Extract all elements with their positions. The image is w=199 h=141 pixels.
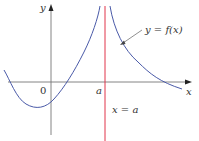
graph-canvas: y x 0 a y = f(x) x = a	[0, 0, 199, 141]
asymptote-label: x = a	[112, 104, 138, 115]
figure: y x 0 a y = f(x) x = a	[0, 0, 199, 141]
origin-label: 0	[40, 85, 46, 96]
x-axis-arrow-icon	[185, 80, 192, 85]
curve-right-branch	[110, 6, 182, 89]
pointer-arrow-icon	[120, 41, 126, 46]
x-axis-label: x	[186, 86, 192, 97]
y-axis-arrow-icon	[49, 4, 54, 11]
curve-label: y = f(x)	[144, 24, 183, 35]
curve-left-branch	[4, 6, 100, 107]
curve-label-pointer	[123, 30, 142, 43]
y-axis-label: y	[39, 2, 46, 13]
a-tick-label: a	[96, 85, 102, 96]
